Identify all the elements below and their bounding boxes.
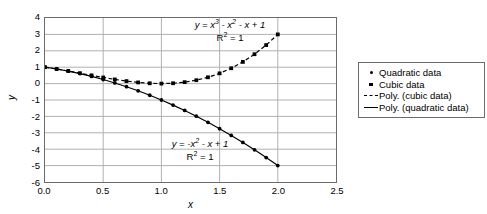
data-point-marker — [160, 82, 164, 86]
data-point-marker — [171, 103, 175, 107]
y-axis-tick-label: -5 — [0, 161, 40, 171]
data-point-marker — [45, 65, 47, 69]
data-point-marker — [90, 73, 94, 77]
legend-item: Poly. (cubic data) — [363, 90, 481, 102]
data-point-marker — [194, 114, 198, 118]
cubic-r2-text: R2 = 1 — [160, 31, 300, 44]
x-axis-tick-label: 0.0 — [24, 186, 64, 196]
data-point-marker — [113, 78, 117, 82]
data-point-marker — [125, 85, 129, 89]
data-point-marker — [148, 81, 152, 85]
data-point-marker — [101, 76, 105, 80]
x-axis-tick-label: 1.5 — [200, 186, 240, 196]
legend-item-label: Cubic data — [379, 80, 424, 90]
x-axis-tick-label: 2.5 — [317, 186, 357, 196]
cubic-equation-text: y = x3 - x2 - x + 1 — [160, 18, 300, 31]
legend-item: Cubic data — [363, 79, 481, 91]
data-point-marker — [253, 52, 257, 56]
x-axis-tick-label: 0.5 — [83, 186, 123, 196]
data-point-marker — [55, 67, 59, 71]
data-point-marker — [218, 127, 222, 131]
legend-item-label: Quadratic data — [379, 68, 441, 78]
data-point-marker — [78, 71, 82, 75]
y-axis-tick-label: -3 — [0, 128, 40, 138]
data-point-marker — [229, 66, 233, 70]
data-point-marker — [218, 71, 222, 75]
data-point-marker — [171, 81, 175, 85]
legend-item: Quadratic data — [363, 67, 481, 79]
cubic-equation-annotation: y = x3 - x2 - x + 1 R2 = 1 — [160, 18, 300, 44]
data-point-marker — [194, 78, 198, 82]
legend-item-label: Poly. (quadratic data) — [379, 103, 469, 113]
y-axis-tick-label: -4 — [0, 145, 40, 155]
solid-line-marker — [363, 102, 379, 113]
y-axis-tick-label: 2 — [0, 45, 40, 55]
quadratic-equation-text: y = -x2 - x + 1 — [130, 137, 270, 150]
data-point-marker — [66, 69, 70, 73]
data-point-marker — [160, 98, 164, 102]
data-point-marker — [136, 89, 140, 93]
chart-legend: Quadratic dataCubic dataPoly. (cubic dat… — [358, 62, 485, 118]
data-point-marker — [113, 81, 117, 85]
y-axis-tick-label: 3 — [0, 29, 40, 39]
dashed-line-marker — [363, 90, 379, 101]
data-point-marker — [183, 80, 187, 84]
x-axis-title: x — [44, 199, 337, 210]
legend-item: Poly. (quadratic data) — [363, 102, 481, 114]
data-point-marker — [125, 79, 129, 83]
y-axis-tick-label: -2 — [0, 112, 40, 122]
dot-marker — [363, 67, 379, 78]
data-point-marker — [148, 93, 152, 97]
y-axis-title: y — [6, 85, 17, 111]
y-axis-tick-label: 1 — [0, 62, 40, 72]
data-point-marker — [241, 60, 245, 64]
data-point-marker — [276, 164, 280, 168]
quadratic-equation-annotation: y = -x2 - x + 1 R2 = 1 — [130, 137, 270, 163]
square-marker — [363, 79, 379, 90]
x-axis-tick-label: 2.0 — [258, 186, 298, 196]
data-point-marker — [136, 81, 140, 85]
data-point-marker — [206, 120, 210, 124]
y-axis-tick-label: 4 — [0, 12, 40, 22]
chart-figure: 43210-1-2-3-4-5-6 0.00.51.01.52.02.5 x y… — [0, 0, 487, 214]
x-axis-tick-label: 1.0 — [141, 186, 181, 196]
legend-item-label: Poly. (cubic data) — [379, 91, 452, 101]
data-point-marker — [183, 109, 187, 113]
data-point-marker — [206, 75, 210, 79]
quadratic-r2-text: R2 = 1 — [130, 150, 270, 163]
